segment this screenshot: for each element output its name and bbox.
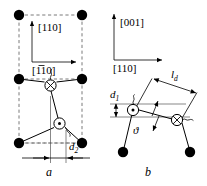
- panel-b-crossed-squiggle: [183, 119, 194, 121]
- panel-b-dislocation-segment: [139, 110, 172, 119]
- panel-a-atom-crossed: [45, 80, 56, 91]
- panel-b-ld-tick-right: [181, 93, 197, 121]
- panel-b-axis-vertical-label: [001]: [120, 16, 144, 28]
- panel-a-axis-vertical-label: [110]: [38, 21, 61, 33]
- panel-b-atom-filled-right: [185, 147, 195, 157]
- panel-a-vlabel-pre: [1: [38, 21, 47, 33]
- panel-b-atom-crossed: [171, 114, 182, 125]
- panel-b-angle-label: ϑ: [133, 124, 139, 136]
- panel-b-angle-arrow-upper: [152, 101, 158, 116]
- panel-b-ld-label: ld: [171, 68, 178, 83]
- panel-a-letter: a: [46, 165, 52, 179]
- panel-b-d1-subscript: 1: [116, 94, 120, 103]
- panel-b-bond-left-down: [124, 114, 132, 148]
- panel-b-axis-horizontal-label: [110]: [113, 62, 136, 74]
- panel-a-d2-subscript: 2: [75, 146, 79, 155]
- panel-a: d2 [110] [110]: [14, 10, 90, 179]
- panel-a-atom-filled-bottom-left: [14, 138, 24, 148]
- panel-b-dotted-squiggle: [133, 94, 135, 104]
- panel-b-letter: b: [145, 165, 151, 179]
- panel-b-atom-filled-left: [118, 147, 128, 157]
- panel-b-ld-subscript: d: [174, 74, 178, 83]
- panel-a-atom-filled-mid-left: [14, 74, 24, 84]
- crystal-defect-figure: d2 [110] [110]: [0, 0, 207, 186]
- panel-b: [001] [110] d1 ld: [110, 14, 197, 179]
- panel-a-atom-dotted: [54, 118, 65, 129]
- panel-a-bond-dot-left: [19, 128, 54, 144]
- panel-a-atom-filled-bottom-right: [77, 138, 87, 148]
- panel-a-atom-filled-top-left: [14, 10, 24, 20]
- panel-a-vlabel-post: 10]: [47, 21, 62, 33]
- panel-a-atom-filled-top-right: [77, 10, 87, 20]
- panel-b-angle-arrow-lower: [153, 116, 159, 131]
- panel-b-d1-label: d1: [110, 88, 119, 103]
- panel-a-atom-filled-mid-right: [77, 74, 87, 84]
- panel-a-bond-cross-dot: [51, 91, 58, 118]
- panel-b-atom-dotted: [127, 104, 138, 115]
- panel-b-bond-right-down: [182, 123, 189, 148]
